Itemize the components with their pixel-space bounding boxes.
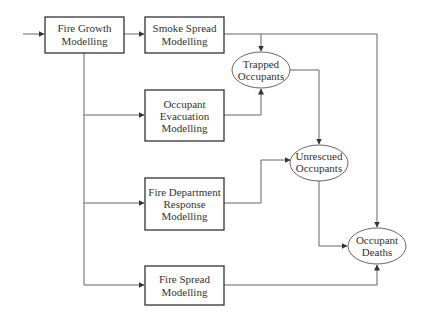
node-label-line: Occupants [238, 70, 284, 82]
node-fire-department-response: Fire Department Response Modelling [145, 178, 224, 230]
node-unrescued-occupants: Unrescued Occupants [290, 145, 348, 181]
node-label-line: Unrescued [295, 150, 343, 162]
node-label-line: Evacuation [160, 110, 210, 122]
flow-diagram: Fire Growth Modelling Smoke Spread Model… [0, 0, 426, 321]
node-smoke-spread: Smoke Spread Modelling [145, 17, 224, 53]
node-label-line: Trapped [243, 58, 280, 70]
node-trapped-occupants: Trapped Occupants [232, 52, 290, 88]
node-label-line: Deaths [362, 246, 393, 258]
node-label-line: Occupants [296, 162, 342, 174]
edge-trapped-to-unrescued [290, 70, 319, 144]
node-label-line: Modelling [162, 286, 208, 298]
node-occupant-deaths: Occupant Deaths [348, 228, 406, 264]
node-label-line: Fire Growth [57, 22, 112, 34]
edge-fire-department-to-unrescued [224, 160, 290, 203]
edge-unrescued-to-occupant-deaths [319, 181, 347, 246]
node-label-line: Modelling [162, 35, 208, 47]
node-label-line: Occupant [356, 234, 398, 246]
node-label-line: Fire Spread [159, 273, 211, 285]
node-fire-growth: Fire Growth Modelling [45, 17, 124, 53]
node-label-line: Fire Department [148, 186, 220, 198]
node-label-line: Modelling [62, 35, 108, 47]
edge-fire-spread-to-occupant-deaths [224, 265, 377, 285]
edge-occupant-evacuation-to-trapped-occupants [224, 89, 261, 115]
node-label-line: Occupant [163, 98, 205, 110]
node-label-line: Modelling [162, 122, 208, 134]
node-label-line: Modelling [162, 210, 208, 222]
node-occupant-evacuation: Occupant Evacuation Modelling [145, 90, 224, 141]
node-label-line: Smoke Spread [153, 22, 217, 34]
node-fire-spread: Fire Spread Modelling [145, 266, 224, 305]
node-label-line: Response [163, 198, 205, 210]
